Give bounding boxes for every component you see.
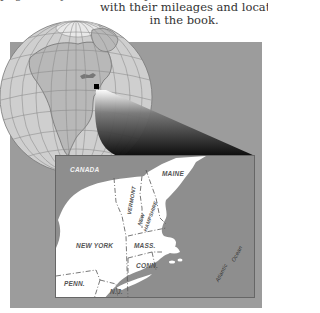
location-marker-icon bbox=[94, 84, 99, 89]
label-maine: MAINE bbox=[162, 170, 184, 177]
label-new-york: NEW YORK bbox=[76, 242, 113, 249]
label-canada: CANADA bbox=[70, 166, 99, 173]
inset-map-shapes bbox=[56, 156, 255, 298]
label-nj: N.J. bbox=[110, 288, 123, 295]
inset-map: CANADA MAINE VERMONT NEW HAMPSHIRE NEW Y… bbox=[55, 155, 255, 298]
land-new-england bbox=[56, 156, 206, 298]
label-mass: MASS. bbox=[134, 242, 156, 249]
label-penn: PENN. bbox=[64, 280, 85, 287]
label-conn: CONN. bbox=[136, 262, 158, 269]
zoom-beam bbox=[95, 90, 255, 156]
